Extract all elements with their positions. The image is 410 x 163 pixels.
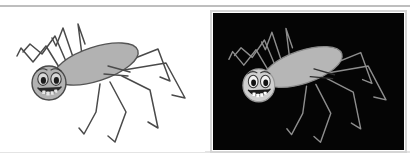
panel-right xyxy=(211,11,406,152)
tooth xyxy=(260,93,263,96)
tooth xyxy=(264,92,267,95)
tooth xyxy=(46,92,50,96)
pupil-left xyxy=(251,80,256,87)
panel-left-background xyxy=(0,10,205,152)
pupil-right xyxy=(54,77,59,84)
pupil-right xyxy=(263,80,268,87)
panel-left xyxy=(0,10,205,152)
tooth xyxy=(50,91,53,95)
pupil-left xyxy=(41,77,46,84)
tooth xyxy=(252,93,255,96)
tooth xyxy=(54,90,57,93)
tooth xyxy=(256,94,259,98)
illustration-canvas xyxy=(0,0,410,163)
tooth xyxy=(42,90,45,94)
